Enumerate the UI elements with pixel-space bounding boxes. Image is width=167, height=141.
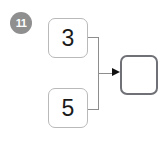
diagram-canvas: 11 3 5 [0, 0, 167, 141]
arrow-head-icon [112, 68, 120, 76]
input-node-top[interactable]: 3 [48, 18, 88, 58]
output-node-empty[interactable] [120, 55, 158, 95]
input-node-top-label: 3 [62, 27, 75, 50]
input-node-bottom[interactable]: 5 [48, 88, 88, 128]
step-number-badge: 11 [10, 12, 32, 34]
input-node-bottom-label: 5 [62, 97, 75, 120]
